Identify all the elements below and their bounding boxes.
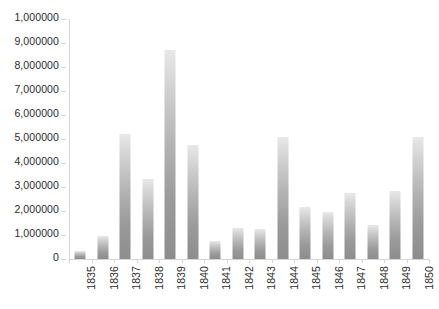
bar[interactable] [187,145,198,259]
bar[interactable] [255,229,266,259]
y-axis-tick-label: 4,000000 [14,155,59,167]
bar-slot [407,19,430,259]
y-axis-tick-mark [61,211,66,212]
x-axis-tick-mark [249,259,250,263]
bar[interactable] [300,207,311,259]
y-axis-tick-label: 9,000000 [14,35,59,47]
x-axis-tick-mark [92,259,93,263]
x-axis-tick-mark [362,259,363,263]
x-axis-tick-mark [429,259,430,263]
bar[interactable] [210,241,221,259]
x-axis-tick-label: 1845 [310,266,322,290]
bar[interactable] [75,251,86,259]
y-axis-tick-label: 6,000000 [14,107,59,119]
bar[interactable] [322,212,333,259]
x-axis-tick-mark [294,259,295,263]
y-axis-tick-mark [61,43,66,44]
y-axis-tick-label: 1,000000 [14,227,59,239]
y-axis-tick-label: 2,000000 [14,203,59,215]
x-axis-tick-mark [114,259,115,263]
bar[interactable] [97,236,108,259]
y-axis-tick-label: 3,000000 [14,179,59,191]
bar-slot [137,19,160,259]
plot-area [69,19,429,259]
y-axis-tick-mark [61,115,66,116]
bar[interactable] [390,191,401,259]
x-axis-tick-label: 1847 [355,266,367,290]
bar-slot [227,19,250,259]
bar-slot [69,19,92,259]
bar[interactable] [345,193,356,259]
x-axis-tick-label: 1838 [153,266,165,290]
bar-slot [294,19,317,259]
y-axis-tick-mark [61,139,66,140]
bar-slot [249,19,272,259]
y-axis-tick-mark [61,235,66,236]
x-axis-tick-label: 1843 [265,266,277,290]
y-axis-tick-label: 1,000000 [14,11,59,23]
y-axis-tick-mark [61,259,66,260]
x-axis-tick-label: 1849 [400,266,412,290]
x-axis-tick-mark [137,259,138,263]
bar[interactable] [142,179,153,259]
bar[interactable] [412,137,423,259]
y-axis-tick-mark [61,187,66,188]
y-axis-tick-label: 7,000000 [14,83,59,95]
x-axis-tick-label: 1837 [130,266,142,290]
bar-slot [159,19,182,259]
x-axis-tick-mark [182,259,183,263]
x-axis-tick-label: 1836 [108,266,120,290]
x-axis-tick-label: 1835 [85,266,97,290]
x-axis-tick-mark [69,259,70,263]
y-axis-tick-mark [61,19,66,20]
y-axis-tick-mark [61,91,66,92]
y-axis-tick-label: 5,000000 [14,131,59,143]
bar-slot [114,19,137,259]
bar-slot [272,19,295,259]
x-axis-tick-mark [317,259,318,263]
bar-slot [339,19,362,259]
x-axis-tick-label: 1846 [333,266,345,290]
x-axis-tick-mark [384,259,385,263]
bar-slot [384,19,407,259]
bar-slot [362,19,385,259]
y-axis-tick-label: 8,000000 [14,59,59,71]
bar[interactable] [232,228,243,259]
x-axis-tick-mark [272,259,273,263]
x-axis-tick-mark [159,259,160,263]
x-axis-tick-label: 1842 [243,266,255,290]
x-axis-tick-mark [339,259,340,263]
y-axis-tick-mark [61,67,66,68]
x-axis-tick-mark [227,259,228,263]
bar-slot [317,19,340,259]
x-axis-tick-mark [407,259,408,263]
x-axis-tick-label: 1841 [220,266,232,290]
x-axis-tick-label: 1844 [288,266,300,290]
bar-slot [92,19,115,259]
x-axis-tick-label: 1848 [378,266,390,290]
y-axis-tick-mark [61,163,66,164]
y-axis-tick-label: 0 [53,251,59,263]
bar-slot [204,19,227,259]
bar-slot [182,19,205,259]
bar-chart: 1,0000009,0000008,0000007,0000006,000000… [0,0,439,309]
x-axis-tick-label: 1850 [423,266,435,290]
x-axis-tick-mark [204,259,205,263]
bar[interactable] [367,225,378,259]
x-axis-tick-label: 1840 [198,266,210,290]
x-axis-tick-label: 1839 [175,266,187,290]
bar[interactable] [165,50,176,259]
bar[interactable] [120,134,131,259]
bar[interactable] [277,137,288,259]
